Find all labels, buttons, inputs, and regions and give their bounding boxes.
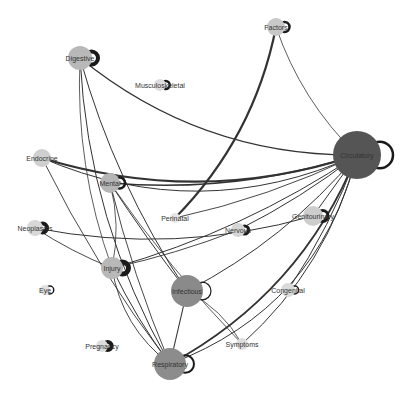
node-label: Digestive bbox=[66, 55, 95, 63]
node-label: Circulatory bbox=[340, 152, 374, 160]
node-label: Symptoms bbox=[225, 341, 259, 349]
graph-canvas: DigestiveFactorsMusculoskeletalCirculato… bbox=[0, 0, 407, 394]
node-symptoms[interactable]: Symptoms bbox=[225, 338, 259, 350]
node-neoplasms[interactable]: Neoplasms bbox=[17, 220, 53, 236]
node-label: Musculoskeletal bbox=[135, 82, 185, 89]
node-endocrine[interactable]: Endocrine bbox=[26, 149, 58, 167]
node-label: Congenital bbox=[271, 287, 305, 295]
edge-symptoms-circulatory bbox=[242, 155, 357, 344]
node-circulatory[interactable]: Circulatory bbox=[333, 131, 381, 179]
edges-layer bbox=[35, 27, 357, 364]
node-label: Endocrine bbox=[26, 155, 58, 162]
network-graph: DigestiveFactorsMusculoskeletalCirculato… bbox=[0, 0, 407, 394]
node-label: Mental bbox=[99, 180, 120, 187]
edge-factors-perinatal bbox=[175, 27, 276, 218]
node-label: Eye bbox=[39, 287, 51, 295]
node-label: Perinatal bbox=[161, 215, 189, 222]
node-injury[interactable]: Injury bbox=[101, 257, 123, 279]
node-label: Genitourinary bbox=[292, 213, 335, 221]
edge-injury-respiratory bbox=[112, 268, 170, 364]
node-label: Nervous bbox=[225, 227, 252, 234]
edge-mental-injury bbox=[110, 183, 116, 268]
node-label: Pregnancy bbox=[85, 343, 119, 351]
nodes-layer: DigestiveFactorsMusculoskeletalCirculato… bbox=[17, 18, 381, 380]
node-musculoskeletal[interactable]: Musculoskeletal bbox=[135, 79, 185, 91]
edge-respiratory-injury bbox=[112, 268, 170, 364]
node-respiratory[interactable]: Respiratory bbox=[152, 348, 188, 380]
node-label: Neoplasms bbox=[17, 225, 53, 233]
node-factors[interactable]: Factors bbox=[264, 18, 288, 36]
node-genitourinary[interactable]: Genitourinary bbox=[292, 206, 335, 226]
node-perinatal[interactable]: Perinatal bbox=[161, 213, 189, 223]
node-infectious[interactable]: Infectious bbox=[171, 275, 203, 307]
node-pregnancy[interactable]: Pregnancy bbox=[85, 340, 119, 352]
node-label: Injury bbox=[103, 265, 121, 273]
node-congenital[interactable]: Congenital bbox=[271, 283, 305, 297]
node-label: Respiratory bbox=[152, 361, 188, 369]
node-label: Infectious bbox=[172, 288, 202, 295]
node-label: Factors bbox=[264, 24, 288, 31]
edge-digestive-respiratory bbox=[80, 58, 170, 364]
